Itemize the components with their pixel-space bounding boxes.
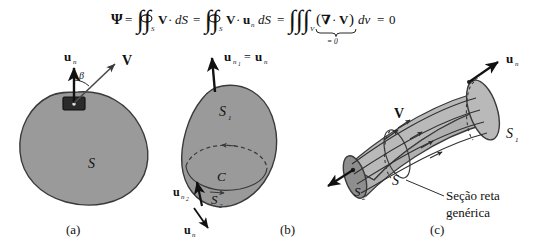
panel-a-surface-label: S xyxy=(88,156,95,171)
panel-a: S u n V β (a) xyxy=(0,44,176,241)
eq-psi: Ψ xyxy=(111,11,123,27)
panel-c-graphic: S 1 S S 2 xyxy=(326,44,547,241)
panel-b-surface-2-sub: 2 xyxy=(219,202,223,210)
panel-b-top-normal-arrow xyxy=(212,58,215,92)
eq-dot-3: · xyxy=(332,12,336,27)
panel-a-velocity-label: V xyxy=(122,53,132,68)
panel-b-top-normal-subsub: 1 xyxy=(238,61,241,67)
equation-graphic: Ψ = ∫ ∫ S V · dS = ∫ ∫ S V · u n xyxy=(109,2,439,48)
panel-b-bottom-normal-arrow xyxy=(194,208,208,228)
eq-dot-1: · xyxy=(168,12,172,27)
eq-u-sub-2: n xyxy=(251,21,255,29)
panel-a-normal-label: u xyxy=(64,49,71,64)
panel-a-angle-label: β xyxy=(78,70,84,81)
panel-b-label: (b) xyxy=(280,222,295,237)
underbrace xyxy=(316,29,356,37)
panel-b-surface-1-label: S xyxy=(219,104,226,119)
panels-row: S u n V β (a) xyxy=(0,44,547,241)
figure-root: Ψ = ∫ ∫ S V · dS = ∫ ∫ S V · u n xyxy=(0,0,547,241)
volume-integral-symbol: ∫ ∫ ∫ xyxy=(287,5,312,35)
panel-a-label: (a) xyxy=(66,222,80,237)
eq-dot-2: · xyxy=(236,12,240,27)
panel-b-contour-label: C xyxy=(217,169,226,184)
right-normal-origin-dot xyxy=(467,80,471,84)
eq-sub-V: V xyxy=(310,25,315,33)
panel-b-top-normal-sub: n xyxy=(233,58,237,66)
panel-b-normal-2-label: u xyxy=(173,185,180,199)
streamline-arrow-4 xyxy=(430,152,442,158)
panel-a-graphic: S u n V β (a) xyxy=(0,44,176,241)
panel-b-bottom-normal-sub: n xyxy=(192,231,196,239)
panel-c-surface-1-sub: 1 xyxy=(515,136,519,144)
panel-b-top-equals: = xyxy=(244,50,251,64)
panel-c-velocity-label: V xyxy=(394,106,404,121)
eq-dv: dv xyxy=(358,12,371,27)
panel-b-normal-2-subsub: 2 xyxy=(186,196,189,202)
equation-band: Ψ = ∫ ∫ S V · dS = ∫ ∫ S V · u n xyxy=(0,2,547,48)
panel-b: S 1 C S 2 u n 1 = u n xyxy=(160,44,340,241)
eq-equals-3: = xyxy=(277,12,284,27)
panel-c-annotation-line2: genérica xyxy=(446,205,490,220)
eq-dS-2: dS xyxy=(258,12,272,27)
panel-c-surface-2-sub: 2 xyxy=(362,194,366,202)
eq-equals-4: = xyxy=(377,12,384,27)
panel-b-top-normal-label2: u xyxy=(255,49,262,64)
panel-c: S 1 S S 2 xyxy=(326,44,547,241)
eq-zero: 0 xyxy=(389,12,396,27)
panel-b-top-normal-label: u xyxy=(224,49,231,64)
panel-c-surface-2-label: S xyxy=(354,184,361,199)
eq-equals-2: = xyxy=(193,12,200,27)
panel-b-bottom-normal-label: u xyxy=(184,223,191,237)
panel-b-normal-2-sub: n xyxy=(181,193,185,201)
eq-V-1: V xyxy=(158,12,168,27)
eq-V-2: V xyxy=(226,12,236,27)
panel-c-label: (c) xyxy=(430,222,444,237)
eq-nabla: ∇ xyxy=(321,12,331,27)
eq-dS-1: dS xyxy=(175,12,189,27)
eq-equals-1: = xyxy=(125,12,132,27)
panel-a-normal-sub: n xyxy=(73,58,77,66)
annotation-leader-line xyxy=(406,180,444,196)
eq-sub-S-1: S xyxy=(151,25,155,33)
panel-b-graphic: S 1 C S 2 u n 1 = u n xyxy=(160,44,340,241)
panel-b-surface-1-sub: 1 xyxy=(228,114,232,122)
eq-u-2: u xyxy=(243,12,250,27)
panel-c-right-normal-arrow xyxy=(469,62,498,82)
eq-paren-close: ) xyxy=(349,11,354,28)
panel-c-right-normal-sub: n xyxy=(515,60,519,68)
panel-b-top-normal-sub2: n xyxy=(264,58,268,66)
panel-c-annotation-line1: Seção reta xyxy=(446,188,500,203)
eq-V-3: V xyxy=(339,12,349,27)
panel-b-surface-2-label: S xyxy=(211,192,218,207)
panel-c-right-normal-label: u xyxy=(506,51,513,66)
panel-c-surface-1-label: S xyxy=(506,126,513,141)
eq-sub-S-2: S xyxy=(219,25,223,33)
